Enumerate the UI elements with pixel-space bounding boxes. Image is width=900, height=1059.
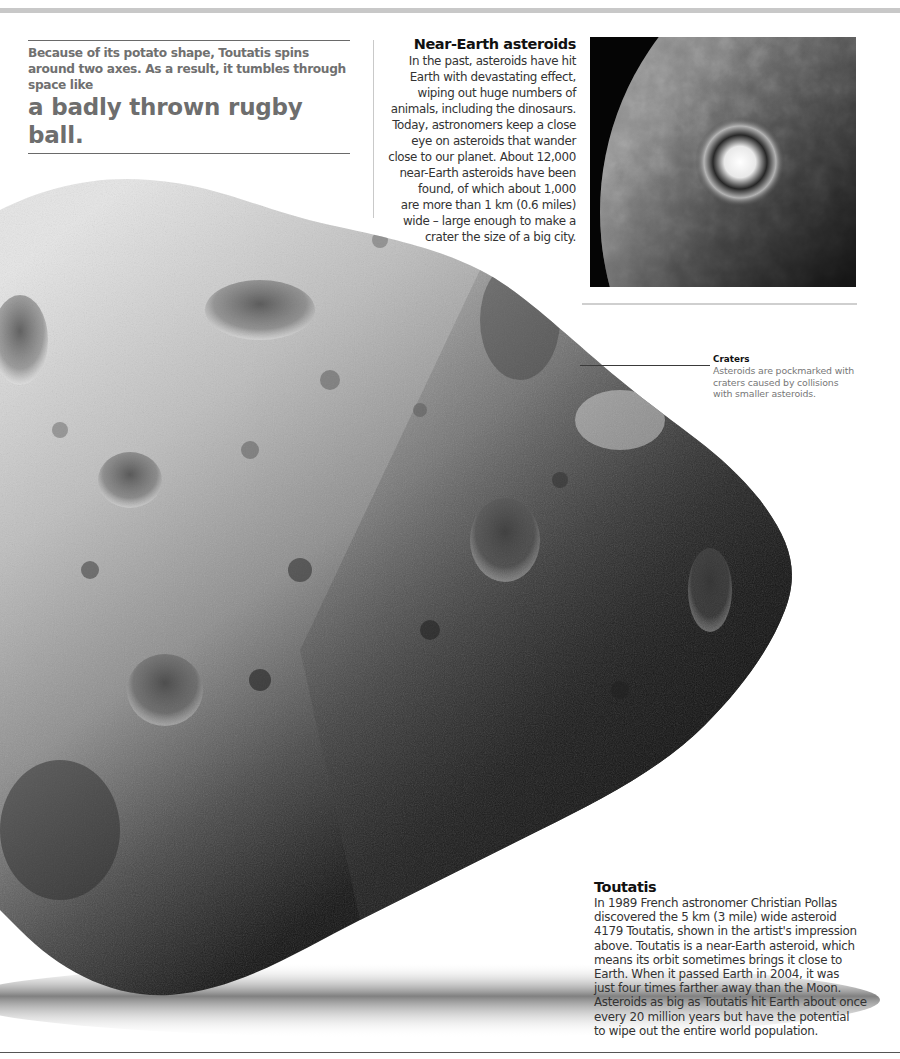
- intro-emphasis-text: a badly thrown rugby ball.: [28, 93, 350, 149]
- craters-leader-line: [580, 365, 710, 366]
- section-divider: [582, 303, 857, 305]
- body-line: Today, astronomers keep a close: [380, 117, 576, 133]
- body-line: discovered the 5 km (3 mile) wide astero…: [594, 910, 884, 924]
- body-line: In 1989 French astronomer Christian Poll…: [594, 896, 884, 910]
- body-line: to wipe out the entire world population.: [594, 1024, 884, 1038]
- body-line: above. Toutatis is a near-Earth asteroid…: [594, 939, 884, 953]
- body-line: with smaller asteroids.: [713, 388, 883, 400]
- toutatis-section: Toutatis In 1989 French astronomer Chris…: [594, 878, 884, 1038]
- top-rule: [0, 8, 900, 13]
- body-line: crater the size of a big city.: [380, 229, 576, 245]
- earth-globe-icon: [590, 37, 856, 287]
- craters-body: Asteroids are pockmarked with craters ca…: [713, 365, 883, 400]
- bottom-rule: [0, 1052, 900, 1053]
- near-earth-asteroids-body: In the past, asteroids have hit Earth wi…: [380, 53, 576, 245]
- intro-lead-text: Because of its potato shape, Toutatis sp…: [28, 45, 350, 93]
- earth-impact-image: [590, 37, 856, 287]
- craters-heading: Craters: [713, 354, 883, 365]
- body-line: eye on asteroids that wander: [380, 133, 576, 149]
- body-line: In the past, asteroids have hit: [380, 53, 576, 69]
- toutatis-body: In 1989 French astronomer Christian Poll…: [594, 896, 884, 1038]
- body-line: wiping out huge numbers of: [380, 85, 576, 101]
- near-earth-asteroids-section: Near-Earth asteroids In the past, astero…: [380, 35, 576, 245]
- body-line: just four times farther away than the Mo…: [594, 981, 884, 995]
- body-line: are more than 1 km (0.6 miles): [380, 197, 576, 213]
- intro-callout: Because of its potato shape, Toutatis sp…: [28, 40, 350, 154]
- body-line: found, of which about 1,000: [380, 181, 576, 197]
- toutatis-heading: Toutatis: [594, 878, 884, 896]
- body-line: craters caused by collisions: [713, 377, 883, 389]
- body-line: wide – large enough to make a: [380, 213, 576, 229]
- body-line: Earth. When it passed Earth in 2004, it …: [594, 967, 884, 981]
- body-line: animals, including the dinosaurs.: [380, 101, 576, 117]
- body-line: near-Earth asteroids have been: [380, 165, 576, 181]
- body-line: close to our planet. About 12,000: [380, 149, 576, 165]
- craters-annotation: Craters Asteroids are pockmarked with cr…: [713, 354, 883, 400]
- body-line: every 20 million years but have the pote…: [594, 1010, 884, 1024]
- body-line: means its orbit sometimes brings it clos…: [594, 953, 884, 967]
- near-earth-asteroids-heading: Near-Earth asteroids: [380, 35, 576, 53]
- body-line: Earth with devastating effect,: [380, 69, 576, 85]
- body-line: 4179 Toutatis, shown in the artist's imp…: [594, 924, 884, 938]
- body-line: Asteroids are pockmarked with: [713, 365, 883, 377]
- body-line: Asteroids as big as Toutatis hit Earth a…: [594, 995, 884, 1009]
